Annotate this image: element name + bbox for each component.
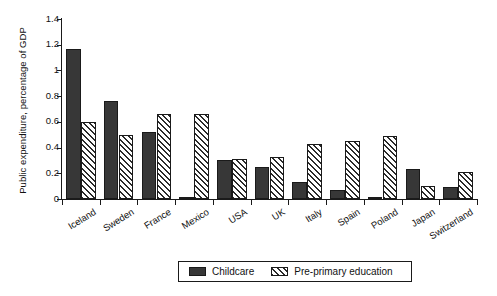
x-tick-mark xyxy=(100,200,101,205)
x-tick-mark xyxy=(439,200,440,205)
y-tick-label: 1.4 xyxy=(46,13,59,25)
legend-label-childcare: Childcare xyxy=(212,266,254,277)
bar-pre-primary xyxy=(81,122,96,199)
bar-group xyxy=(292,19,322,199)
bar-pre-primary xyxy=(345,141,360,199)
bar-pre-primary xyxy=(307,144,322,199)
bar-group xyxy=(66,19,96,199)
bar-chart-figure: Public expenditure, percentage of GDP 00… xyxy=(0,0,497,296)
bar-childcare xyxy=(179,197,194,199)
x-tick-mark xyxy=(137,200,138,205)
y-tick-label: 0.6 xyxy=(46,115,59,127)
bar-pre-primary xyxy=(232,159,247,199)
x-tick-mark xyxy=(326,200,327,205)
bar-pre-primary xyxy=(458,172,473,199)
bar-childcare xyxy=(368,197,383,199)
y-tick-label: 0.4 xyxy=(46,141,59,153)
bar-pre-primary xyxy=(119,135,134,199)
y-tick-label: 1 xyxy=(54,64,59,76)
bar-childcare xyxy=(66,49,81,199)
bar-group xyxy=(330,19,360,199)
x-tick-mark xyxy=(251,200,252,205)
x-tick-mark xyxy=(402,200,403,205)
y-axis-title: Public expenditure, percentage of GDP xyxy=(17,16,28,206)
y-tick-label: 1.2 xyxy=(46,38,59,50)
bar-group xyxy=(142,19,172,199)
x-tick-mark xyxy=(213,200,214,205)
bar-group xyxy=(368,19,398,199)
x-axis-line xyxy=(61,199,478,200)
x-tick-mark xyxy=(364,200,365,205)
bar-group xyxy=(104,19,134,199)
chart-legend: Childcare Pre-primary education xyxy=(178,261,412,282)
bar-group xyxy=(179,19,209,199)
y-tick-label: 0.8 xyxy=(46,90,59,102)
bar-group xyxy=(217,19,247,199)
bar-childcare xyxy=(255,167,270,199)
x-tick-mark xyxy=(175,200,176,205)
bar-childcare xyxy=(330,190,345,199)
legend-label-pre-primary-education: Pre-primary education xyxy=(294,266,392,277)
bar-pre-primary xyxy=(421,186,436,199)
x-tick-mark xyxy=(288,200,289,205)
y-tick-label: 0 xyxy=(54,193,59,205)
bar-pre-primary xyxy=(383,136,398,199)
x-tick-mark xyxy=(62,200,63,205)
legend-item-pre-primary-education: Pre-primary education xyxy=(271,266,392,277)
bar-pre-primary xyxy=(270,157,285,199)
bar-childcare xyxy=(217,160,232,199)
legend-swatch-childcare-icon xyxy=(189,267,206,276)
plot-area: 00.20.40.60.811.21.4 xyxy=(62,19,477,199)
legend-swatch-pre-primary-icon xyxy=(271,267,288,276)
bar-pre-primary xyxy=(194,114,209,199)
bar-childcare xyxy=(406,169,421,199)
bar-group xyxy=(443,19,473,199)
bar-childcare xyxy=(142,132,157,199)
y-tick-label: 0.2 xyxy=(46,167,59,179)
legend-item-childcare: Childcare xyxy=(189,266,254,277)
bar-group xyxy=(406,19,436,199)
bar-childcare xyxy=(292,182,307,199)
bar-pre-primary xyxy=(157,114,172,199)
bar-group xyxy=(255,19,285,199)
bar-childcare xyxy=(104,101,119,199)
bar-childcare xyxy=(443,187,458,199)
x-tick-mark xyxy=(477,200,478,205)
